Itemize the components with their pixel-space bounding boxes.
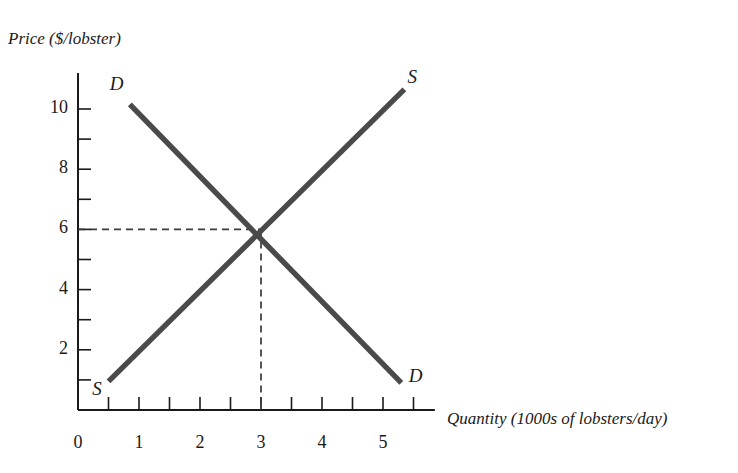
x-axis-tick-label: 2 [185,432,215,453]
y-axis-tick-label: 4 [34,278,68,299]
supply-curve-label: S [408,66,418,88]
x-axis-tick-label: 3 [246,432,276,453]
supply-demand-plot [0,0,738,473]
curves [109,89,405,382]
y-axis-tick-label: 2 [34,338,68,359]
x-axis-title: Quantity (1000s of lobsters/day) [447,409,668,429]
x-axis-tick-label: 5 [368,432,398,453]
supply-curve-label: S [92,378,102,400]
y-axis-title: Price ($/lobster) [8,29,121,49]
y-axis-tick-label: 10 [34,97,68,118]
demand-curve-label: D [110,73,124,95]
y-axis-tick-label: 6 [34,217,68,238]
x-axis-tick-label: 0 [63,432,93,453]
y-axis-tick-label: 8 [34,157,68,178]
chart-figure: Price ($/lobster) Quantity (1000s of lob… [0,0,738,473]
x-axis-tick-label: 4 [307,432,337,453]
demand-curve [130,104,401,382]
demand-curve-label: D [409,365,423,387]
x-axis-tick-label: 1 [124,432,154,453]
